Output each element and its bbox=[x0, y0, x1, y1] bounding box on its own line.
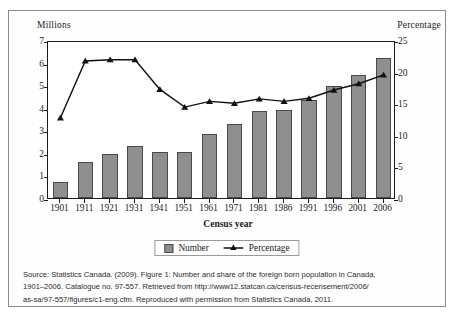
y-right-tick-label: 0 bbox=[398, 195, 403, 205]
legend-label-number: Number bbox=[178, 243, 208, 253]
source-line-3: as-sa/97-557/figures/c1-eng.cfm. Reprodu… bbox=[23, 294, 433, 306]
y-left-tick-label: 0 bbox=[39, 195, 44, 205]
x-tick-label-1986: 1986 bbox=[274, 203, 293, 213]
x-tick-label-1921: 1921 bbox=[100, 203, 119, 213]
line-series-percentage bbox=[48, 42, 396, 200]
y-right-tick-label: 5 bbox=[398, 163, 403, 173]
x-tick-label-1951: 1951 bbox=[174, 203, 193, 213]
x-axis-labels: 1901191119211931194119511961197119811986… bbox=[47, 203, 395, 219]
x-tick-label-1931: 1931 bbox=[125, 203, 144, 213]
y-left-tick-label: 4 bbox=[39, 105, 44, 115]
figure-container: Millions Percentage 01234567 0510152025 … bbox=[8, 10, 446, 307]
x-tick-label-1981: 1981 bbox=[249, 203, 268, 213]
plot-area: 01234567 0510152025 bbox=[47, 41, 395, 199]
legend-line-triangle-icon bbox=[224, 244, 244, 252]
y-right-tick-label: 10 bbox=[398, 132, 408, 142]
y-left-tick-label: 3 bbox=[39, 127, 44, 137]
percentage-polyline bbox=[60, 60, 383, 118]
x-tick-label-1971: 1971 bbox=[224, 203, 243, 213]
y-right-tick-label: 25 bbox=[398, 37, 408, 47]
legend-item-number: Number bbox=[164, 243, 208, 253]
x-tick-label-1996: 1996 bbox=[324, 203, 343, 213]
x-tick-label-2001: 2001 bbox=[348, 203, 367, 213]
chart-legend: Number Percentage bbox=[154, 240, 299, 256]
source-line-1: Source: Statistics Canada. (2009). Figur… bbox=[23, 269, 433, 281]
percentage-marker-1901 bbox=[57, 115, 64, 121]
percentage-marker-2006 bbox=[380, 72, 387, 78]
x-tick-label-1991: 1991 bbox=[299, 203, 318, 213]
source-caption: Source: Statistics Canada. (2009). Figur… bbox=[23, 269, 433, 306]
x-tick-label-1941: 1941 bbox=[150, 203, 169, 213]
y-left-tick-label: 6 bbox=[39, 60, 44, 70]
y-left-tick-label: 1 bbox=[39, 172, 44, 182]
x-tick-label-1901: 1901 bbox=[50, 203, 69, 213]
x-tick-label-1961: 1961 bbox=[199, 203, 218, 213]
x-tick-label-2006: 2006 bbox=[373, 203, 392, 213]
y-left-tick-label: 2 bbox=[39, 150, 44, 160]
legend-item-percentage: Percentage bbox=[224, 243, 290, 253]
x-tick-label-1911: 1911 bbox=[75, 203, 93, 213]
source-line-2: 1901–2006. Catalogue no. 97-557. Retriev… bbox=[23, 281, 433, 293]
y-right-tick-label: 20 bbox=[398, 69, 408, 79]
y-right-tick-label: 15 bbox=[398, 100, 408, 110]
y-axis-right-title: Percentage bbox=[397, 20, 441, 30]
chart-area: Millions Percentage 01234567 0510152025 … bbox=[9, 11, 447, 229]
y-left-tick-label: 5 bbox=[39, 82, 44, 92]
y-axis-left-title: Millions bbox=[37, 20, 71, 30]
legend-label-percentage: Percentage bbox=[249, 243, 290, 253]
x-axis-title: Census year bbox=[9, 219, 447, 229]
y-left-tick-label: 7 bbox=[39, 37, 44, 47]
legend-square-swatch-icon bbox=[164, 244, 173, 253]
